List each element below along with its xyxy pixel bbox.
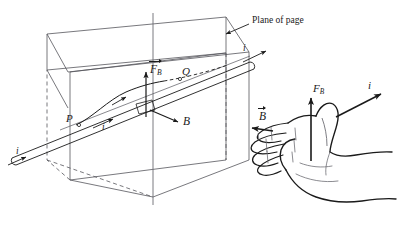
horizontal-plane-lower-fold [47,17,226,108]
current-label-on-wire: i [102,123,105,133]
force-symbol: F [150,63,157,75]
current-label-upper-right: i [243,44,246,54]
arc-direction-arrow [112,97,126,105]
force-subscript: B [157,68,162,77]
hand-force-subscript: B [320,88,324,96]
deflection-arc-dashed [164,65,228,81]
left-diagram-group [8,13,266,205]
hand-current-label: i [368,80,371,91]
field-vector-label: B [183,116,190,128]
horizontal-plane-body [47,53,226,70]
plane-of-page-leader [226,24,249,34]
point-p-marker [77,123,80,126]
right-hand-group [251,94,396,202]
hidden-edges-dashed [47,53,226,197]
current-label-lower-left: i [16,147,19,157]
hand-current-vector-arrow [336,94,381,117]
vertical-plane-front [70,53,226,180]
hand-field-label: B [259,111,266,123]
vector-overbar [258,108,265,109]
vector-overbar [149,61,161,62]
plane-of-page-label: Plane of page [252,16,304,26]
physics-diagram-svg [0,0,408,228]
current-wire-rod [11,62,254,165]
horizontal-plane [47,17,249,72]
hand-force-label: FB [313,83,324,96]
field-vector-arrow [150,110,178,122]
figure-canvas: Plane of page P Q FB B i i i FB i B [0,0,408,228]
current-arrow-lower-left [8,157,26,165]
point-q-label: Q [182,66,190,77]
hand-field-symbol: B [259,110,266,122]
point-q-marker [178,77,181,80]
point-p-label: P [66,113,73,124]
palm-creases [296,152,338,182]
force-vector-label: FB [150,64,162,76]
hand-force-symbol: F [313,82,320,94]
thumb-inner-line [322,118,327,146]
hand-outline [280,103,396,202]
